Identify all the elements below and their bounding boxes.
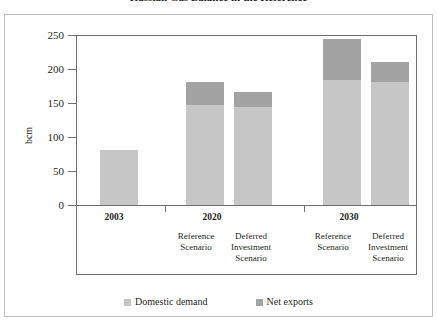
bar-segment-net-exports bbox=[371, 62, 409, 82]
legend-label-domestic-demand: Domestic demand bbox=[135, 296, 207, 307]
y-tick-mark-150 bbox=[68, 103, 76, 104]
scenario-line-2: Scenario bbox=[180, 242, 212, 252]
x-axis-group-tick-1 bbox=[165, 205, 166, 212]
x-axis-line bbox=[76, 205, 417, 206]
scenario-line-1: Deferred bbox=[372, 231, 404, 241]
y-tick-mark-250 bbox=[68, 35, 76, 36]
scenario-line-1: Reference bbox=[315, 231, 351, 241]
bar-segment-net-exports bbox=[323, 39, 361, 80]
legend-label-net-exports: Net exports bbox=[267, 296, 313, 307]
bar-2030-reference bbox=[323, 39, 361, 205]
scenario-line-1: Deferred bbox=[235, 231, 267, 241]
y-axis-title: bcm bbox=[23, 106, 34, 166]
x-label-year-2020: 2020 bbox=[177, 212, 247, 222]
x-label-2030-reference-scenario: Reference Scenario bbox=[306, 231, 360, 253]
scenario-line-3: Scenario bbox=[235, 253, 267, 263]
chart-title: Russian Gas Balance in the Reference and… bbox=[0, 0, 437, 5]
bar-segment-domestic-demand bbox=[371, 82, 409, 205]
x-label-2030-deferred-investment-scenario: Deferred Investment Scenario bbox=[359, 231, 417, 264]
bar-2003 bbox=[100, 150, 138, 205]
bar-2020-deferred-investment bbox=[234, 92, 272, 205]
scenario-line-2: Investment bbox=[368, 242, 408, 252]
legend-swatch-icon-net-exports bbox=[256, 299, 263, 306]
bar-2020-reference bbox=[186, 82, 224, 205]
bar-segment-domestic-demand bbox=[186, 105, 224, 205]
y-tick-mark-0 bbox=[68, 205, 76, 206]
bar-segment-net-exports bbox=[186, 82, 224, 105]
y-tick-mark-100 bbox=[68, 137, 76, 138]
scenario-line-2: Investment bbox=[231, 242, 271, 252]
legend-swatch-icon-domestic-demand bbox=[124, 299, 131, 306]
legend-item-net-exports: Net exports bbox=[256, 296, 313, 307]
y-tick-label-200: 200 bbox=[24, 64, 64, 75]
bar-2030-deferred-investment bbox=[371, 62, 409, 205]
y-tick-mark-200 bbox=[68, 69, 76, 70]
y-tick-label-250: 250 bbox=[24, 30, 64, 41]
bar-segment-domestic-demand bbox=[234, 107, 272, 205]
y-tick-label-0: 0 bbox=[24, 200, 64, 211]
chart-title-line-2: and Deferred Investment Scenarios bbox=[0, 3, 437, 5]
x-label-2020-deferred-investment-scenario: Deferred Investment Scenario bbox=[222, 231, 280, 264]
chart-figure: Russian Gas Balance in the Reference and… bbox=[0, 0, 437, 322]
chart-legend: Domestic demand Net exports bbox=[0, 291, 437, 309]
x-label-year-2003: 2003 bbox=[79, 212, 149, 222]
x-axis-group-tick-2 bbox=[304, 205, 305, 212]
scenario-line-1: Reference bbox=[178, 231, 214, 241]
legend-item-domestic-demand: Domestic demand bbox=[124, 296, 207, 307]
x-label-year-2030: 2030 bbox=[314, 212, 384, 222]
x-label-2020-reference-scenario: Reference Scenario bbox=[169, 231, 223, 253]
bar-segment-domestic-demand bbox=[100, 150, 138, 205]
scenario-line-3: Scenario bbox=[372, 253, 404, 263]
scenario-line-2: Scenario bbox=[317, 242, 349, 252]
plot-area bbox=[76, 35, 417, 205]
y-tick-mark-50 bbox=[68, 171, 76, 172]
bar-segment-domestic-demand bbox=[323, 80, 361, 205]
y-tick-label-50: 50 bbox=[24, 166, 64, 177]
bar-segment-net-exports bbox=[234, 92, 272, 107]
